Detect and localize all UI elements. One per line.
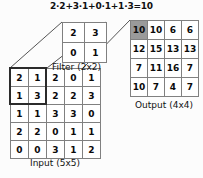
input-cell: 2: [65, 87, 83, 105]
input-cell: 3: [83, 87, 101, 105]
output-label: Output (4x4): [125, 100, 203, 110]
input-cell: 2: [83, 141, 101, 159]
output-cell: 7: [148, 78, 165, 97]
input-cell: 3: [65, 105, 83, 123]
convolution-diagram: 2·2+3·1+0·1+1·3=10 2 3 0 1 Filter (2x2): [0, 0, 203, 178]
input-cell: 1: [11, 87, 29, 105]
output-cell: 7: [182, 78, 199, 97]
filter-label: Filter (2x2): [52, 62, 101, 72]
table-row: 1 3 2 2 3: [11, 87, 101, 105]
table-row: 12 15 13 13: [131, 40, 199, 59]
output-cell: 10: [148, 21, 165, 40]
input-cell: 1: [29, 105, 47, 123]
filter-cell: 2: [63, 23, 85, 43]
output-cell: 13: [165, 40, 182, 59]
input-matrix: 2 1 2 0 1 1 3 2 2 3 1 1 3 3 0 2: [10, 68, 101, 159]
table-row: 0 0 3 1 2: [11, 141, 101, 159]
input-cell: 3: [47, 141, 65, 159]
input-cell: 2: [11, 123, 29, 141]
input-cell: 0: [11, 141, 29, 159]
input-cell: 3: [29, 87, 47, 105]
input-label: Input (5x5): [10, 158, 100, 168]
table-row: 7 11 16 7: [131, 59, 199, 78]
input-cell: 2: [11, 69, 29, 87]
input-cell: 3: [47, 105, 65, 123]
table-row: 0 1: [63, 43, 107, 63]
filter-cell: 0: [63, 43, 85, 63]
output-cell: 11: [148, 59, 165, 78]
input-cell: 0: [83, 105, 101, 123]
table-row: 2 2 0 1 1: [11, 123, 101, 141]
input-cell: 1: [29, 69, 47, 87]
formula-text: 2·2+3·1+0·1+1·3=10: [0, 1, 203, 11]
output-matrix: 10 10 6 6 12 15 13 13 7 11 16 7 10 7 4: [130, 20, 199, 97]
output-cell: 6: [165, 21, 182, 40]
input-cell: 0: [29, 141, 47, 159]
output-cell: 15: [148, 40, 165, 59]
output-cell: 7: [131, 59, 148, 78]
table-row: 10 7 4 7: [131, 78, 199, 97]
input-cell: 1: [83, 123, 101, 141]
output-cell: 12: [131, 40, 148, 59]
output-cell: 13: [182, 40, 199, 59]
table-row: 10 10 6 6: [131, 21, 199, 40]
table-row: 1 1 3 3 0: [11, 105, 101, 123]
input-cell: 1: [11, 105, 29, 123]
output-cell: 7: [182, 59, 199, 78]
output-cell-highlighted: 10: [131, 21, 148, 40]
output-cell: 16: [165, 59, 182, 78]
filter-cell: 3: [85, 23, 107, 43]
input-cell: 0: [47, 123, 65, 141]
table-row: 2 3: [63, 23, 107, 43]
input-cell: 1: [65, 141, 83, 159]
input-cell: 1: [65, 123, 83, 141]
input-cell: 2: [29, 123, 47, 141]
output-cell: 10: [131, 78, 148, 97]
output-cell: 6: [182, 21, 199, 40]
filter-cell: 1: [85, 43, 107, 63]
filter-matrix: 2 3 0 1: [62, 22, 107, 63]
input-cell: 2: [47, 87, 65, 105]
output-cell: 4: [165, 78, 182, 97]
